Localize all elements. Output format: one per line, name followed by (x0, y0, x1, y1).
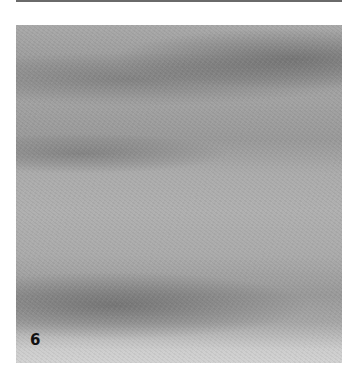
panel-label: 6 (30, 331, 40, 349)
top-border-line (16, 0, 342, 2)
texture-overlay (16, 25, 342, 363)
image-panel: 6 (16, 25, 342, 363)
